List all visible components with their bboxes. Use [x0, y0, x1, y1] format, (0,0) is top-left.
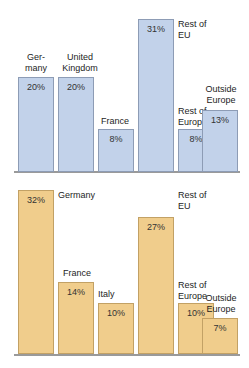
bar-value-united-kingdom-top: 20%: [59, 82, 93, 92]
bar-chart-top: Ger- many 20% United Kingdom 20% France …: [0, 0, 249, 184]
bar-value-rest-of-eu-bottom: 27%: [139, 222, 173, 232]
bar-label-rest-of-eu-top: Rest of EU: [178, 19, 238, 40]
bar-united-kingdom-top[interactable]: 20%: [58, 77, 94, 172]
bar-germany-bottom[interactable]: 32%: [18, 190, 54, 354]
bar-outside-europe-top[interactable]: 13%: [202, 110, 238, 172]
bar-label-outside-europe-top: Outside Europe: [196, 84, 246, 105]
bar-italy-bottom[interactable]: 10%: [98, 303, 134, 354]
bar-value-france-bottom: 14%: [59, 287, 93, 297]
bar-france-bottom[interactable]: 14%: [58, 282, 94, 354]
bar-label-france-bottom: France: [52, 268, 102, 279]
bar-value-france-top: 8%: [99, 134, 133, 144]
bar-france-top[interactable]: 8%: [98, 129, 134, 172]
plot-area-bottom: Germany 32% France 14% Italy 10% Rest of…: [0, 184, 249, 368]
bar-label-united-kingdom-top: United Kingdom: [54, 52, 106, 73]
bar-rest-of-eu-bottom[interactable]: 27%: [138, 217, 174, 354]
bar-label-outside-europe-bottom: Outside Europe: [196, 293, 246, 314]
bar-label-germany-top: Ger- many: [16, 52, 56, 73]
bar-outside-europe-bottom[interactable]: 7%: [202, 318, 238, 354]
bar-value-italy-bottom: 10%: [99, 308, 133, 318]
bar-label-italy-bottom: Italy: [98, 289, 138, 300]
bar-germany-top[interactable]: 20%: [18, 77, 54, 172]
bar-chart-bottom: Germany 32% France 14% Italy 10% Rest of…: [0, 184, 249, 368]
bar-value-rest-of-eu-top: 31%: [139, 24, 173, 34]
bar-label-germany-bottom: Germany: [58, 190, 128, 201]
axis-baseline-bottom: [14, 354, 240, 356]
bar-rest-of-eu-top[interactable]: 31%: [138, 19, 174, 172]
bar-value-germany-bottom: 32%: [19, 195, 53, 205]
plot-area-top: Ger- many 20% United Kingdom 20% France …: [0, 0, 249, 184]
bar-label-rest-of-eu-bottom: Rest of EU: [178, 190, 238, 211]
bar-value-outside-europe-bottom: 7%: [203, 323, 237, 333]
bar-label-france-top: France: [90, 116, 140, 127]
bar-value-outside-europe-top: 13%: [203, 115, 237, 125]
bar-value-germany-top: 20%: [19, 82, 53, 92]
